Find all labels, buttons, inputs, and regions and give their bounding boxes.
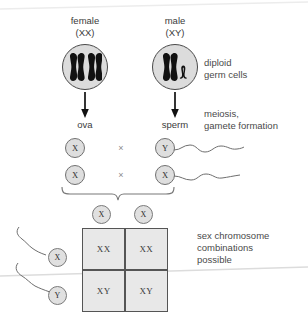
sperm-flagellum-row2 [173, 166, 241, 188]
cross-symbol-row1: × [115, 143, 127, 153]
gamete-ovum-row2: X [65, 165, 85, 185]
chromosome-pair-xy-icon [159, 52, 191, 82]
chromosome-pair-xx-icon [68, 52, 102, 82]
punnett-row-header-1: X [48, 248, 67, 267]
grouping-brace [60, 186, 176, 202]
genetics-diagram: female (XX) male (XY) [0, 0, 308, 317]
sperm-flagellum-rowheader-1 [14, 226, 48, 258]
punnett-cell-r2c2: XY [126, 271, 167, 311]
scan-artifact-top [0, 0, 308, 12]
sperm-flagellum-row1 [173, 139, 245, 161]
meiosis-arrow-male [168, 92, 182, 118]
punnett-cell-r2c1: XY [83, 271, 124, 311]
gamete-sperm-row1: Y [155, 138, 175, 158]
punnett-square: XX XX XY XY [82, 228, 168, 312]
annotation-meiosis: meiosis, gamete formation [204, 108, 308, 132]
annotation-combinations: sex chromosome combinations possible [197, 230, 305, 265]
germ-cell-female [62, 44, 108, 90]
punnett-column-header-2: X [134, 205, 153, 224]
punnett-cell-r1c2: XX [126, 229, 167, 269]
sperm-flagellum-rowheader-2 [14, 262, 52, 296]
gamete-label-sperm: sperm [150, 119, 200, 131]
punnett-cell-r1c1: XX [83, 229, 124, 269]
parent-label-male: male (XY) [145, 15, 205, 38]
meiosis-arrow-female [78, 92, 92, 118]
punnett-row-header-2: Y [48, 286, 67, 305]
parent-label-female: female (XX) [55, 15, 115, 38]
gamete-sperm-row2: X [155, 165, 175, 185]
punnett-column-header-1: X [92, 205, 111, 224]
gamete-ovum-row1: X [65, 138, 85, 158]
germ-cell-male [152, 44, 198, 90]
cross-symbol-row2: × [115, 170, 127, 180]
annotation-diploid-germ-cells: diploid germ cells [204, 57, 304, 81]
gamete-label-ova: ova [60, 119, 110, 131]
